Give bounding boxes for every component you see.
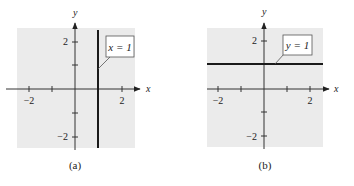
figure: x = 1 −2 2 2 −2 x y (a) — [0, 0, 354, 186]
caption-b: (b) — [259, 159, 272, 172]
x-tick-label-2: 2 — [308, 95, 313, 106]
y-axis-label: y — [261, 6, 267, 17]
x-axis-label: x — [333, 83, 339, 94]
panel-a: x = 1 −2 2 2 −2 x y (a) — [6, 7, 151, 172]
y-tick-label-neg2: −2 — [246, 131, 257, 142]
x-tick-label-neg2: −2 — [213, 95, 224, 106]
x-tick-label-neg2: −2 — [24, 95, 35, 106]
caption-a: (a) — [69, 159, 82, 172]
y-tick-label-2: 2 — [63, 36, 68, 47]
y-tick-label-2: 2 — [252, 35, 257, 46]
line-label: x = 1 — [107, 41, 131, 53]
line-label: y = 1 — [285, 39, 309, 51]
y-axis-label: y — [72, 7, 78, 18]
x-axis-label: x — [145, 83, 151, 94]
panel-b: y = 1 −2 2 2 −2 x y (b) — [207, 6, 339, 172]
y-tick-label-neg2: −2 — [57, 131, 68, 142]
x-tick-label-2: 2 — [120, 95, 125, 106]
